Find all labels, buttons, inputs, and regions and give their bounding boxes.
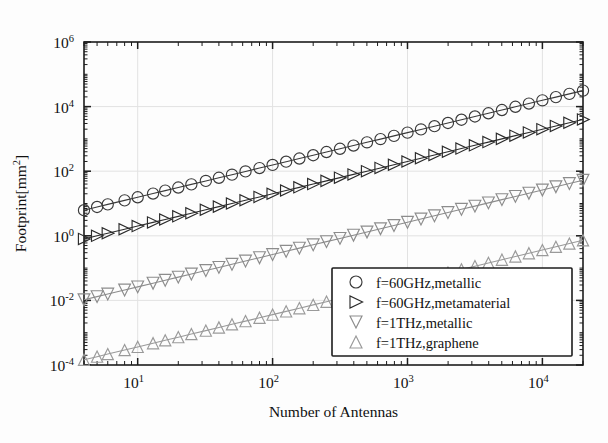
x-axis-title: Number of Antennas	[269, 403, 398, 420]
series-line-1	[84, 119, 583, 238]
x-tick-label: 103	[393, 373, 414, 391]
y-tick-label: 106	[53, 33, 74, 51]
x-tick-label: 102	[258, 373, 279, 391]
legend-label: f=1THz,graphene	[376, 335, 479, 351]
x-tick-label: 104	[528, 373, 550, 391]
y-tick-label: 10-2	[50, 291, 74, 309]
chart-canvas: 10110210310410-410-2100102104106 Number …	[0, 0, 608, 443]
y-tick-label: 102	[53, 162, 74, 180]
y-axis-title-group: Footprint[mm2]	[11, 155, 29, 252]
legend-label: f=60GHz,metamaterial	[376, 295, 510, 311]
series-1	[78, 114, 589, 245]
y-tick-label: 10-4	[50, 356, 75, 374]
legend-label: f=60GHz,metallic	[376, 275, 481, 291]
y-axis-title: Footprint[mm2]	[11, 155, 29, 252]
chart-legend[interactable]: f=60GHz,metallicf=60GHz,metamaterialf=1T…	[332, 268, 572, 356]
chart-figure: 10110210310410-410-2100102104106 Number …	[0, 0, 608, 443]
y-tick-label: 104	[53, 98, 75, 116]
x-tick-label: 101	[123, 373, 144, 391]
legend-label: f=1THz,metallic	[376, 315, 472, 331]
y-tick-label: 100	[53, 227, 74, 245]
